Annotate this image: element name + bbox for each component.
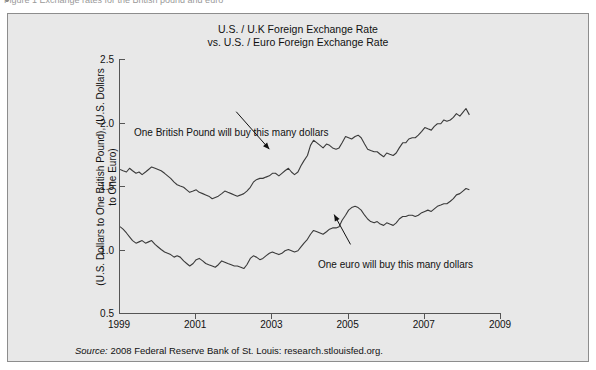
y-tick-label: 2.0	[100, 117, 114, 128]
x-tick-label: 2001	[184, 319, 206, 330]
source-text: 2008 Federal Reserve Bank of St. Louis: …	[110, 345, 382, 356]
x-tick-mark	[271, 313, 272, 319]
x-tick-mark	[195, 313, 196, 319]
cropped-caption-strip: Figure 1 Exchange rates for the British …	[0, 0, 596, 12]
source-note: Source: 2008 Federal Reserve Bank of St.…	[75, 345, 383, 356]
x-tick-label: 1999	[108, 319, 130, 330]
chart-title: U.S. / U.K Foreign Exchange Rate vs. U.S…	[8, 23, 588, 49]
x-axis-tick-labels: 199920012003200520072009	[119, 313, 501, 333]
y-tick-label: 1.0	[100, 244, 114, 255]
y-tick-label: 2.5	[100, 54, 114, 65]
y-tick-mark	[119, 313, 125, 314]
plot-lines-svg	[120, 59, 501, 313]
x-tick-label: 2003	[260, 319, 282, 330]
x-tick-label: 2005	[336, 319, 358, 330]
y-tick-mark	[119, 186, 125, 187]
y-tick-label: 0.5	[100, 308, 114, 319]
x-tick-mark	[348, 313, 349, 319]
figure-frame: U.S. / U.K Foreign Exchange Rate vs. U.S…	[7, 13, 589, 362]
y-tick-mark	[119, 59, 125, 60]
y-tick-mark	[119, 250, 125, 251]
y-axis-label-host: (U.S. Dollars to One British Pound), (U.…	[54, 59, 80, 313]
y-tick-mark	[119, 123, 125, 124]
series-line-1	[120, 189, 469, 269]
x-tick-mark	[424, 313, 425, 319]
x-tick-label: 2007	[413, 319, 435, 330]
annotation-gbp: One British Pound will buy this many dol…	[134, 127, 329, 138]
x-tick-mark	[500, 313, 501, 319]
source-prefix: Source:	[75, 345, 108, 356]
y-tick-label: 1.5	[100, 181, 114, 192]
x-tick-label: 2009	[489, 319, 511, 330]
cropped-caption-text: Figure 1 Exchange rates for the British …	[4, 0, 223, 5]
series-line-0	[120, 109, 469, 199]
y-axis-tick-labels: 0.51.01.52.02.5	[78, 59, 114, 313]
annotation-eur: One euro will buy this many dollars	[318, 259, 473, 270]
plot-area	[119, 59, 501, 314]
